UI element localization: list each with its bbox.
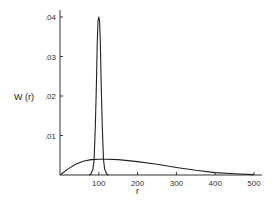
x-tick-label: 400 [209, 179, 223, 188]
x-axis-label: r [136, 186, 139, 196]
y-tick-label: .03 [45, 53, 57, 62]
x-tick-label: 500 [247, 179, 261, 188]
y-axis-label: W (r) [14, 92, 34, 102]
x-tick-label: 100 [92, 179, 106, 188]
axes [60, 10, 262, 175]
y-tick-label: .04 [45, 13, 57, 22]
y-tick-label: .02 [45, 92, 57, 101]
chart: .01.02.03.04100200300400500 W (r) r [0, 0, 276, 204]
x-tick-label: 300 [170, 179, 184, 188]
y-tick-label: .01 [45, 132, 57, 141]
series [60, 17, 254, 175]
ticks: .01.02.03.04100200300400500 [45, 13, 261, 188]
series-line-1 [60, 159, 254, 175]
series-line-0 [89, 17, 108, 175]
